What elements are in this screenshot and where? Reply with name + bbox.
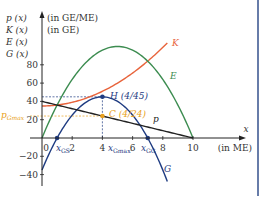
- x-tick-label: 0: [43, 143, 49, 153]
- y-tick-label: −20: [19, 151, 38, 161]
- y-label-k: K (x): [5, 25, 28, 35]
- x-tick-label: 4: [100, 143, 106, 153]
- y-label-e: E (x): [5, 37, 28, 47]
- curve-label-k: K: [171, 38, 180, 48]
- series-p: [42, 101, 193, 138]
- y-tick-label: 40: [27, 96, 39, 106]
- y-tick-label: 20: [27, 115, 39, 125]
- y-tick-label: 60: [27, 78, 39, 88]
- x-tick-label: 8: [160, 143, 166, 153]
- p-gmax-label: pGmax: [1, 110, 25, 121]
- x-gg-label: xGG: [141, 143, 156, 154]
- x-tick-label: 10: [187, 143, 199, 153]
- x-gs-label: xGS: [56, 143, 70, 154]
- point-c: [100, 114, 105, 119]
- y-label-g: G (x): [6, 49, 29, 59]
- x-tick-label: 2: [69, 143, 75, 153]
- y-tick-label: −40: [19, 170, 38, 180]
- point-label-h: H (4/45): [109, 91, 148, 101]
- y-tick-label: 80: [27, 60, 39, 70]
- y-label-p: p (x): [6, 13, 27, 23]
- y-unit-ge: (in GE): [47, 25, 79, 35]
- x-label: x: [243, 124, 248, 134]
- chart: 024681080604020−20−40 p (x) K (x) E (x) …: [0, 0, 264, 200]
- x-tick-label: 6: [130, 143, 136, 153]
- curve-label-g: G: [164, 164, 171, 174]
- point-label-c: C (4/24): [109, 109, 146, 119]
- curve-label-p: p: [153, 114, 159, 124]
- x-gmax-label: xGmax: [108, 143, 131, 154]
- point-h: [100, 95, 105, 100]
- y-unit-ge-me: (in GE/ME): [47, 13, 98, 23]
- curve-label-e: E: [169, 71, 177, 81]
- y-axis-arrow-icon: [40, 11, 45, 18]
- x-axis-arrow-icon: [239, 136, 246, 141]
- x-unit: (in ME): [218, 143, 252, 153]
